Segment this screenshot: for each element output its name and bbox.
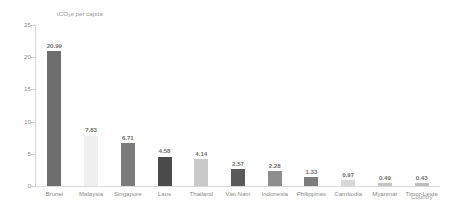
y-axis-tick-label: 10 (0, 119, 31, 125)
y-axis-tick-label: 15 (0, 86, 31, 92)
bar-column[interactable]: 4.14 (194, 25, 208, 186)
category-label: Viet Nam (220, 191, 257, 198)
bar-column[interactable]: 4.58 (158, 25, 172, 186)
bar-value-label: 4.14 (195, 151, 207, 157)
bar[interactable] (194, 159, 208, 186)
x-axis-line (35, 186, 440, 187)
bar-value-label: 4.58 (159, 148, 171, 154)
bar-column[interactable]: 0.97 (341, 25, 355, 186)
category-label: Malaysia (73, 191, 110, 198)
bar-value-label: 2.57 (232, 161, 244, 167)
bar-value-label: 0.43 (416, 175, 428, 181)
bar[interactable] (84, 136, 98, 186)
x-axis-title: Country (411, 194, 433, 200)
category-label: Laos (146, 191, 183, 198)
bar-value-label: 2.28 (269, 163, 281, 169)
bar-column[interactable]: 6.71 (121, 25, 135, 186)
y-axis-tick-mark (31, 186, 36, 187)
bar[interactable] (268, 171, 282, 186)
bar-value-label: 1.33 (306, 169, 318, 175)
bar-value-label: 6.71 (122, 135, 134, 141)
y-axis-title: tCO₂e per capita (57, 11, 103, 17)
bar[interactable] (121, 143, 135, 186)
bar-value-label: 7.83 (85, 127, 97, 133)
bar[interactable] (378, 183, 392, 186)
category-label: Thailand (183, 191, 220, 198)
bar[interactable] (158, 157, 172, 186)
bar-column[interactable]: 7.83 (84, 25, 98, 186)
category-label: Myanmar (367, 191, 404, 198)
y-axis-tick-label: 0 (0, 183, 31, 189)
bar-column[interactable]: 0.49 (378, 25, 392, 186)
bar-column[interactable]: 2.28 (268, 25, 282, 186)
y-axis-tick-label: 25 (0, 22, 31, 28)
bar[interactable] (47, 51, 61, 186)
x-axis-category-labels: BruneiMalaysiaSingaporeLaosThailandViet … (36, 191, 440, 205)
category-label: Singapore (109, 191, 146, 198)
bar-series: 20.997.836.714.584.142.572.281.330.970.4… (36, 25, 440, 186)
bar[interactable] (341, 180, 355, 186)
bar[interactable] (304, 177, 318, 186)
bar[interactable] (231, 169, 245, 186)
y-axis-tick-label: 5 (0, 151, 31, 157)
bar-column[interactable]: 1.33 (304, 25, 318, 186)
category-label: Cambodia (330, 191, 367, 198)
bar-column[interactable]: 20.99 (47, 25, 61, 186)
bar[interactable] (415, 183, 429, 186)
bar-chart: tCO₂e per capita 0510152025 20.997.836.7… (0, 0, 449, 221)
category-label: Philippines (293, 191, 330, 198)
bar-value-label: 20.99 (47, 43, 62, 49)
category-label: Indonesia (256, 191, 293, 198)
category-label: Brunei (36, 191, 73, 198)
bar-column[interactable]: 0.43 (415, 25, 429, 186)
bar-column[interactable]: 2.57 (231, 25, 245, 186)
bar-value-label: 0.97 (342, 172, 354, 178)
bar-value-label: 0.49 (379, 175, 391, 181)
y-axis-tick-label: 20 (0, 54, 31, 60)
